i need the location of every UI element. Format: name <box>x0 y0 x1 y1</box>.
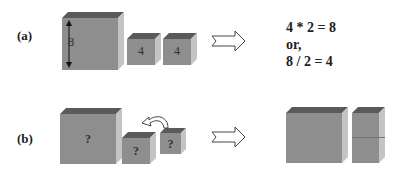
result-stacked-cubes <box>352 107 385 163</box>
small-cube-a-2: 4 <box>163 33 197 65</box>
row-a-label: (a) <box>17 28 32 44</box>
big-cube-a: 8 <box>62 12 124 70</box>
big-cube-b-label: ? <box>60 132 116 147</box>
right-arrow-icon <box>211 30 247 52</box>
equation-or: or, <box>286 36 336 53</box>
equation-divide: 8 / 2 = 4 <box>286 53 336 70</box>
curved-swap-arrow-icon <box>140 112 172 130</box>
result-big-cube <box>286 107 348 163</box>
right-arrow-icon <box>211 126 247 148</box>
big-cube-b: ? <box>60 108 122 164</box>
equation-multiply: 4 * 2 = 8 <box>286 19 336 36</box>
equations: 4 * 2 = 8 or, 8 / 2 = 4 <box>286 19 336 70</box>
small-cube-b-1-label: ? <box>122 144 150 159</box>
small-cube-b-2-label: ? <box>160 137 181 152</box>
small-cube-b-2: ? <box>160 128 186 154</box>
small-cube-b-1: ? <box>122 132 156 164</box>
small-cube-a-1-label: 4 <box>127 44 155 59</box>
small-cube-a-1: 4 <box>127 33 161 65</box>
small-cube-a-2-label: 4 <box>163 44 191 59</box>
big-cube-a-label: 8 <box>66 34 76 50</box>
row-b-label: (b) <box>17 131 33 147</box>
stack-divider <box>352 137 385 138</box>
